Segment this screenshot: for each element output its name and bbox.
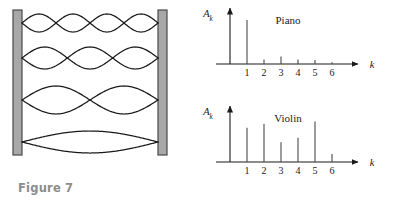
chart-group: AkkPiano123456AkkViolin123456 <box>202 8 374 176</box>
wave-envelope <box>22 86 158 114</box>
wave-envelope <box>22 14 158 32</box>
standing-wave-mode-2 <box>22 86 158 114</box>
wave-envelope <box>22 47 158 69</box>
chart-piano: AkkPiano123456 <box>202 8 374 78</box>
chart-title: Violin <box>274 112 302 124</box>
figure8-panel: AkkPiano123456AkkViolin123456 Figure 8 <box>200 0 403 206</box>
x-tick-label: 4 <box>296 67 301 78</box>
right-wall <box>158 10 167 155</box>
left-wall <box>13 10 22 155</box>
y-axis-label: Ak <box>202 106 213 121</box>
x-tick-label: 4 <box>296 165 301 176</box>
chart-title: Piano <box>275 14 301 26</box>
x-tick-label: 1 <box>245 165 250 176</box>
spectra-charts: AkkPiano123456AkkViolin123456 <box>200 0 403 180</box>
standing-wave-mode-3 <box>22 47 158 69</box>
wave-envelope <box>22 47 158 69</box>
figure-pair-page: Figure 7 AkkPiano123456AkkViolin123456 F… <box>0 0 403 206</box>
chart-violin: AkkViolin123456 <box>202 106 374 176</box>
x-tick-label: 6 <box>330 67 335 78</box>
standing-wave-group <box>22 14 158 153</box>
x-tick-label: 6 <box>330 165 335 176</box>
wave-envelope <box>22 131 158 142</box>
figure7-panel: Figure 7 <box>0 0 200 206</box>
wave-envelope <box>22 142 158 153</box>
x-tick-label: 3 <box>279 165 284 176</box>
standing-wave-mode-4 <box>22 14 158 32</box>
x-axis-label: k <box>370 157 375 168</box>
x-tick-label: 3 <box>279 67 284 78</box>
x-tick-label: 2 <box>262 165 267 176</box>
x-tick-label: 1 <box>245 67 250 78</box>
x-tick-label: 5 <box>313 165 318 176</box>
x-tick-label: 2 <box>262 67 267 78</box>
figure7-caption: Figure 7 <box>18 181 73 195</box>
x-tick-label: 5 <box>313 67 318 78</box>
y-axis-label: Ak <box>202 8 213 23</box>
standing-waves-diagram <box>0 0 200 180</box>
x-axis-label: k <box>370 59 375 70</box>
standing-wave-mode-1 <box>22 131 158 153</box>
